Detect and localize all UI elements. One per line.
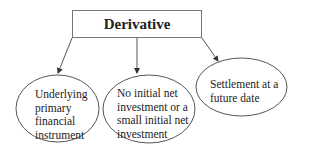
node-2-line-4: investment — [117, 128, 189, 142]
node-2-line-1: No initial net — [117, 87, 189, 101]
node-1-label: Underlying primary financial instrument — [35, 88, 87, 142]
arrow-to-node-3 — [202, 38, 218, 61]
root-node-derivative: Derivative — [72, 10, 202, 38]
node-1-line-4: instrument — [35, 129, 87, 143]
node-1-line-3: financial — [35, 115, 87, 129]
node-3-label: Settlement at a future date — [210, 78, 278, 105]
node-1-line-2: primary — [35, 102, 87, 116]
node-2-line-3: small initial net — [117, 114, 189, 128]
root-node-label: Derivative — [104, 16, 171, 33]
node-2-label: No initial net investment or a small ini… — [117, 87, 189, 141]
node-2-line-2: investment or a — [117, 101, 189, 115]
node-3-line-2: future date — [210, 92, 278, 106]
arrow-to-node-1 — [58, 38, 72, 73]
node-3-line-1: Settlement at a — [210, 78, 278, 92]
node-1-line-1: Underlying — [35, 88, 87, 102]
